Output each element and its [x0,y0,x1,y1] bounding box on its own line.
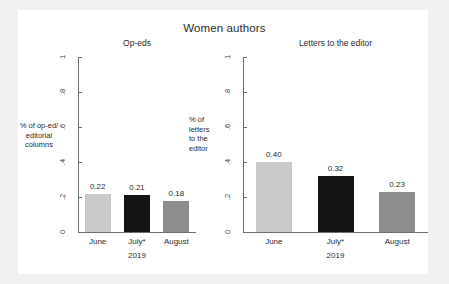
y-tick-label: 1 [58,48,68,66]
y-tick-label: 0 [58,223,68,241]
x-axis-title-op-eds: 2019 [107,251,167,260]
y-tick-0 [78,232,82,233]
y-tick-label: .2 [58,188,68,206]
bar-value-august: 0.23 [375,180,419,189]
y-tick-label: .4 [58,153,68,171]
bar-august [379,192,415,232]
y-tick-label: .2 [223,188,233,206]
bar-value-june: 0.40 [252,150,296,159]
bar-june [85,194,111,233]
y-tick-label: .8 [223,83,233,101]
bar-value-june: 0.22 [76,182,120,191]
panel-title-op-eds: Op-eds [78,38,196,48]
bars-op-eds: 0.22 0.21 0.18 [78,57,196,232]
y-tick-0 [243,232,247,233]
bar-july [124,195,150,232]
x-axis-title-letters: 2019 [306,251,366,260]
y-axis-title-line: to the [189,134,241,144]
x-tick-label-august: August [146,237,206,246]
chart-figure: Women authors Op-eds Letters to the edit… [0,0,449,284]
x-tick-label-august: August [367,237,427,246]
y-axis-title-line: columns [0,140,78,150]
panel-op-eds: % of op-ed/ editorial columns 1 .8 .6 .4… [48,57,196,235]
chart-title: Women authors [0,22,449,34]
x-axis-line-op-eds [78,232,196,233]
y-tick-label: 0 [223,223,233,241]
x-tick-label-july: July* [306,237,366,246]
panel-title-letters: Letters to the editor [243,38,428,48]
bar-july [318,176,354,232]
y-axis-title-line: letters [189,125,241,135]
x-axis-line-letters [243,232,428,233]
y-tick-label: .6 [58,118,68,136]
panel-letters: % of letters to the editor 1 .8 .6 .4 .2… [213,57,428,235]
y-tick-label: .4 [223,153,233,171]
y-tick-label: .8 [58,83,68,101]
x-tick-label-june: June [244,237,304,246]
y-tick-label: .6 [223,118,233,136]
bar-june [256,162,292,232]
y-axis-title-line: % of [189,115,241,125]
bar-value-august: 0.18 [154,189,198,198]
y-axis-title-line: editor [189,144,241,154]
bar-august [163,201,189,233]
y-tick-label: 1 [223,48,233,66]
bar-value-july: 0.21 [115,183,159,192]
y-axis-title-letters: % of letters to the editor [189,115,241,153]
bar-value-july: 0.32 [314,164,358,173]
bars-letters: 0.40 0.32 0.23 [243,57,428,232]
